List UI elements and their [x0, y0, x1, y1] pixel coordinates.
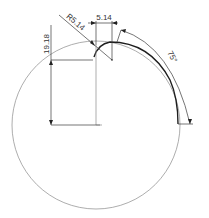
radius-center-point	[111, 59, 113, 61]
cad-drawing: 19.18 5.14 R5.14 75°	[0, 0, 209, 218]
horizontal-dimension-label: 5.14	[96, 13, 112, 22]
horizontal-dimension: 5.14	[88, 13, 118, 60]
vertical-dimension-label: 19.18	[42, 33, 51, 54]
angle-dimension-label: 75°	[165, 49, 179, 64]
profile-arc	[94, 42, 178, 124]
vertical-dimension: 19.18	[42, 25, 53, 125]
angle-dimension: 75°	[117, 29, 193, 124]
